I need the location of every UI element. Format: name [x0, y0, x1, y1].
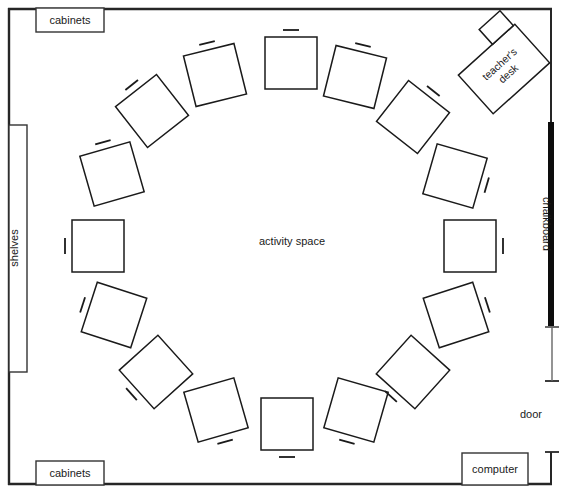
- student-desk: [184, 378, 250, 449]
- student-desk-surface: [183, 43, 246, 106]
- student-desk-surface: [323, 45, 386, 108]
- student-desk: [444, 220, 503, 272]
- student-chair-marker: [217, 440, 232, 444]
- student-chair-marker: [485, 297, 490, 312]
- computer-station: computer: [462, 453, 528, 485]
- student-desk: [323, 39, 388, 109]
- door-label: door: [520, 408, 542, 420]
- student-desk: [111, 69, 188, 148]
- student-chair-marker: [427, 86, 440, 96]
- student-desk: [265, 30, 317, 89]
- student-desk-surface: [72, 220, 124, 272]
- student-desk: [78, 135, 144, 206]
- student-desk-surface: [80, 142, 144, 206]
- student-chair-marker: [339, 440, 354, 444]
- cabinets-bottom: cabinets: [36, 461, 104, 485]
- floorplan-canvas: door chalkboard cabinets shelves cabinet…: [0, 0, 568, 487]
- student-chair-marker: [125, 80, 138, 90]
- activity-space-label: activity space: [259, 235, 325, 247]
- student-chair-marker: [80, 297, 85, 312]
- student-chair-marker: [95, 140, 110, 144]
- student-desk-surface: [423, 282, 489, 348]
- student-desk: [423, 280, 495, 348]
- student-desk-surface: [423, 144, 487, 208]
- student-desk: [322, 378, 388, 449]
- student-desk-surface: [324, 378, 388, 442]
- computer-label: computer: [472, 463, 518, 475]
- classroom-floor-plan: door chalkboard cabinets shelves cabinet…: [0, 0, 568, 487]
- student-desk: [377, 75, 454, 154]
- chalkboard-label: chalkboard: [541, 197, 553, 251]
- student-desk: [261, 398, 313, 457]
- shelves-left: shelves: [8, 125, 27, 372]
- student-desk-surface: [265, 37, 317, 89]
- student-desk-surface: [444, 220, 496, 272]
- teachers-desk: teacher's desk: [445, 9, 550, 113]
- student-desk: [423, 144, 494, 210]
- cabinets-top-label: cabinets: [50, 14, 91, 26]
- student-desk-surface: [261, 398, 313, 450]
- student-chair-marker: [485, 177, 489, 192]
- student-desk-surface: [377, 81, 450, 154]
- student-desk-surface: [184, 378, 248, 442]
- shelves-label: shelves: [8, 229, 20, 267]
- cabinets-top: cabinets: [36, 8, 104, 32]
- cabinets-bottom-label: cabinets: [50, 467, 91, 479]
- student-desk: [182, 37, 247, 107]
- student-chair-marker: [199, 41, 215, 45]
- student-desk: [75, 280, 147, 348]
- student-desk-surface: [81, 282, 147, 348]
- student-desk: [114, 335, 193, 413]
- student-desk: [65, 220, 124, 272]
- door-opening: [545, 327, 559, 452]
- student-chair-marker: [126, 388, 137, 400]
- student-desk-surface: [116, 75, 189, 148]
- student-chair-marker: [355, 43, 371, 47]
